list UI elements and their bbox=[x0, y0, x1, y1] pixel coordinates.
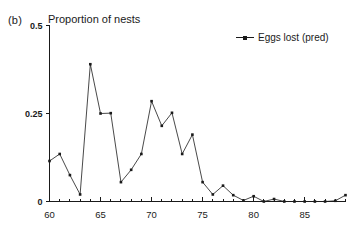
x-tick-label: 60 bbox=[44, 209, 55, 220]
y-tick-label: 0 bbox=[37, 197, 42, 207]
data-point bbox=[314, 200, 317, 203]
data-point bbox=[181, 153, 184, 156]
data-point bbox=[334, 200, 337, 203]
x-tick-label: 70 bbox=[146, 209, 157, 220]
data-point bbox=[89, 63, 92, 66]
data-point bbox=[222, 184, 225, 187]
plot-area: 00.250.5606570758085 bbox=[0, 0, 353, 241]
data-point bbox=[58, 153, 61, 156]
data-point bbox=[303, 200, 306, 203]
data-point bbox=[130, 169, 133, 172]
figure-panel-b: (b) Proportion of nests Eggs lost (pred)… bbox=[0, 0, 353, 241]
data-point bbox=[252, 195, 255, 198]
data-point bbox=[48, 160, 51, 163]
x-tick-label: 80 bbox=[248, 209, 259, 220]
x-tick-label: 65 bbox=[95, 209, 106, 220]
y-tick-label: 0.5 bbox=[30, 21, 43, 31]
data-point bbox=[242, 199, 245, 202]
data-point bbox=[69, 174, 72, 177]
data-point bbox=[79, 193, 82, 196]
data-point bbox=[212, 193, 215, 196]
data-point bbox=[150, 100, 153, 103]
data-point bbox=[293, 200, 296, 203]
data-point bbox=[160, 125, 163, 128]
x-tick-label: 85 bbox=[299, 209, 310, 220]
data-point bbox=[99, 112, 102, 115]
y-tick-label: 0.25 bbox=[25, 109, 43, 119]
data-point bbox=[263, 200, 266, 203]
data-point bbox=[191, 133, 194, 136]
data-point bbox=[344, 194, 347, 197]
data-point bbox=[120, 181, 123, 184]
data-point bbox=[201, 181, 204, 184]
series-line-0 bbox=[50, 64, 346, 201]
data-point bbox=[283, 200, 286, 203]
data-point bbox=[171, 112, 174, 115]
data-point bbox=[324, 200, 327, 203]
data-point bbox=[109, 112, 112, 115]
data-point bbox=[140, 153, 143, 156]
x-tick-label: 75 bbox=[197, 209, 208, 220]
data-point bbox=[273, 198, 276, 201]
data-point bbox=[232, 194, 235, 197]
